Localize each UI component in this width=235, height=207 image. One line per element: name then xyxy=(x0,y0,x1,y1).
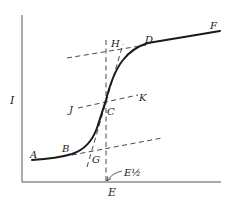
half-wave-potential-label: E½ xyxy=(123,167,141,178)
wave-curve xyxy=(32,31,220,160)
y-axis-label: I xyxy=(9,94,15,107)
point-label-j: J xyxy=(67,104,74,115)
point-label-b: B xyxy=(61,143,69,154)
point-label-g: G xyxy=(92,154,100,165)
polarogram-diagram: I E A B G C J K H D F E½ xyxy=(0,0,235,207)
half-wave-arrow xyxy=(107,171,122,181)
point-label-k: K xyxy=(138,92,147,103)
point-label-d: D xyxy=(144,34,153,45)
x-axis-label: E xyxy=(107,186,116,199)
point-label-h: H xyxy=(110,38,120,49)
point-label-f: F xyxy=(209,20,218,31)
point-label-a: A xyxy=(29,149,37,160)
point-label-c: C xyxy=(107,106,115,117)
upper-plateau-extrapolation xyxy=(67,45,146,58)
